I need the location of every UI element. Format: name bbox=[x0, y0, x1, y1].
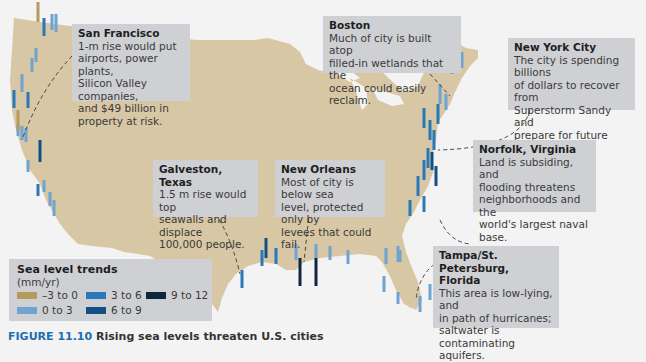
figure-number: FIGURE 11.10 bbox=[8, 330, 92, 343]
legend-swatch bbox=[146, 292, 166, 299]
callout-san-francisco: San Francisco 1-m rise would put airport… bbox=[72, 24, 190, 101]
legend-unit: (mm/yr) bbox=[17, 276, 204, 288]
callout-boston: Boston Much of city is built atop filled… bbox=[323, 16, 461, 73]
legend-item: 3 to 6 bbox=[86, 289, 142, 301]
legend-swatch bbox=[17, 292, 37, 299]
callout-tampa: Tampa/St. Petersburg, Florida This area … bbox=[433, 246, 559, 328]
callout-new-york-city: New York City The city is spending billi… bbox=[508, 38, 635, 110]
legend-item: –3 to 0 bbox=[17, 289, 78, 301]
callout-norfolk: Norfolk, Virginia Land is subsiding, and… bbox=[473, 140, 596, 212]
legend-swatch bbox=[86, 307, 106, 314]
callout-title: San Francisco bbox=[78, 27, 184, 40]
legend-swatch bbox=[86, 292, 106, 299]
legend-item: 6 to 9 bbox=[86, 304, 142, 316]
figure-caption: FIGURE 11.10 Rising sea levels threaten … bbox=[8, 331, 324, 343]
callout-new-orleans: New Orleans Most of city is below sea le… bbox=[275, 160, 385, 217]
figure-caption-text: Rising sea levels threaten U.S. cities bbox=[96, 330, 324, 343]
map-legend: Sea level trends (mm/yr) –3 to 0 0 to 3 … bbox=[9, 259, 212, 321]
legend-item: 9 to 12 bbox=[146, 289, 208, 301]
legend-item: 0 to 3 bbox=[17, 304, 73, 316]
legend-title: Sea level trends bbox=[17, 263, 204, 276]
callout-galveston: Galveston, Texas 1.5 m rise would top se… bbox=[153, 160, 258, 217]
legend-swatch bbox=[17, 307, 37, 314]
